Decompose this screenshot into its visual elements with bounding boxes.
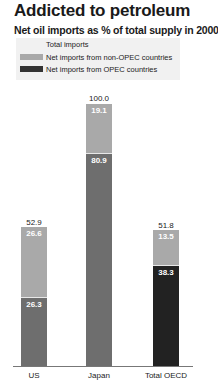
bar-segment-japan-non-opec: 19.1 [86,104,112,154]
value-label-oecd-opec: 38.3 [153,268,179,277]
value-label-us-opec: 26.3 [21,300,47,309]
bar-us: 26.6 26.3 [21,227,47,366]
value-label-japan-non-opec: 19.1 [86,106,112,115]
bar-segment-us-non-opec: 26.6 [21,227,47,298]
bar-segment-oecd-opec: 38.3 [153,266,179,366]
bar-segment-oecd-non-opec: 13.5 [153,230,179,266]
total-label-japan: 100.0 [79,94,119,103]
category-label-us: US [4,371,64,380]
bar-oecd: 13.5 38.3 [153,230,179,366]
bar-segment-us-opec: 26.3 [21,298,47,366]
total-label-us: 52.9 [14,218,54,227]
value-label-us-non-opec: 26.6 [21,229,47,238]
category-label-oecd: Total OECD [136,371,196,380]
bar-segment-japan-opec: 80.9 [86,154,112,366]
chart-area: 52.9 26.6 26.3 US 100.0 19.1 80.9 Japan … [0,0,218,392]
total-label-oecd: 51.8 [146,221,186,230]
value-label-oecd-non-opec: 13.5 [153,232,179,241]
x-axis-baseline [13,366,193,367]
bar-japan: 19.1 80.9 [86,104,112,366]
value-label-japan-opec: 80.9 [86,156,112,165]
category-label-japan: Japan [69,371,129,380]
